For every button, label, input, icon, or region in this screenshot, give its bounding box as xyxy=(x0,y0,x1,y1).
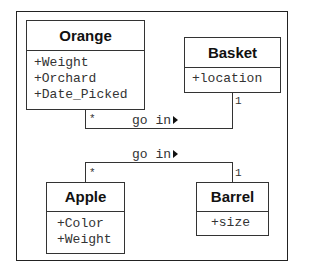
class-barrel-name: Barrel xyxy=(197,183,268,212)
class-basket-name: Basket xyxy=(185,38,280,68)
multiplicity-basket: 1 xyxy=(235,96,242,107)
attribute-orchard: +Orchard xyxy=(34,71,144,87)
association-label-text: go in xyxy=(132,147,171,162)
attribute-size: +size xyxy=(211,215,268,231)
class-basket: Basket +location xyxy=(184,37,281,93)
association-line-orange-basket xyxy=(232,93,233,129)
direction-arrow-icon xyxy=(173,150,178,158)
attribute-weight: +Weight xyxy=(34,55,144,71)
multiplicity-orange: * xyxy=(89,114,96,125)
association-line-orange-basket xyxy=(85,110,86,129)
class-basket-attributes: +location xyxy=(185,68,280,87)
association-line-apple-barrel xyxy=(85,162,86,183)
association-line-apple-barrel xyxy=(85,162,233,163)
direction-arrow-icon xyxy=(173,116,178,124)
association-label-apple-barrel: go in xyxy=(132,148,178,161)
class-orange: Orange +Weight +Orchard +Date_Picked xyxy=(26,20,145,110)
class-barrel: Barrel +size xyxy=(196,182,269,236)
association-label-text: go in xyxy=(132,113,171,128)
multiplicity-barrel: 1 xyxy=(235,168,242,179)
multiplicity-apple: * xyxy=(89,168,96,179)
attribute-color: +Color xyxy=(57,216,124,232)
attribute-date-picked: +Date_Picked xyxy=(34,87,144,103)
class-apple-name: Apple xyxy=(47,183,124,212)
attribute-location: +location xyxy=(192,71,280,87)
association-line-apple-barrel xyxy=(232,162,233,183)
association-line-orange-basket xyxy=(85,128,233,129)
association-label-orange-basket: go in xyxy=(132,114,178,127)
class-apple-attributes: +Color +Weight xyxy=(47,212,124,248)
attribute-weight: +Weight xyxy=(57,232,124,248)
class-apple: Apple +Color +Weight xyxy=(46,182,125,254)
class-barrel-attributes: +size xyxy=(197,212,268,231)
class-orange-name: Orange xyxy=(27,21,144,51)
class-orange-attributes: +Weight +Orchard +Date_Picked xyxy=(27,51,144,103)
